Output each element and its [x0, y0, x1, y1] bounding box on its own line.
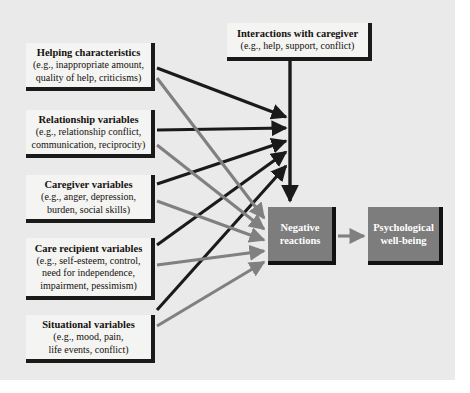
node-helping-characteristics[interactable]: Helping characteristics (e.g., inappropr… [26, 43, 155, 91]
node-label-line: well-being [373, 234, 434, 248]
node-detail-line: communication, reciprocity) [32, 139, 146, 151]
node-psychological-well-being[interactable]: Psychological well-being [368, 207, 443, 265]
node-detail-line: need for independence, [42, 267, 135, 279]
node-label-line: reactions [280, 234, 321, 248]
node-detail-line: (e.g., mood, pain, [53, 331, 123, 343]
node-detail-line: quality of help, criticisms) [36, 72, 142, 84]
node-label: Psychological well-being [373, 221, 434, 248]
node-title: Care recipient variables [35, 242, 143, 255]
node-negative-reactions[interactable]: Negative reactions [268, 207, 336, 265]
node-detail-line: (e.g., self-esteem, control, [36, 255, 140, 267]
node-interactions-with-caregiver[interactable]: Interactions with caregiver (e.g., help,… [227, 23, 372, 61]
node-title: Caregiver variables [45, 178, 133, 191]
node-title: Helping characteristics [37, 46, 141, 59]
node-care-recipient-variables[interactable]: Care recipient variables (e.g., self-est… [26, 238, 155, 300]
node-situational-variables[interactable]: Situational variables (e.g., mood, pain,… [26, 315, 155, 363]
node-relationship-variables[interactable]: Relationship variables (e.g., relationsh… [26, 110, 155, 158]
figure-root: Helping characteristics (e.g., inappropr… [0, 0, 470, 393]
node-title: Relationship variables [38, 113, 138, 126]
node-label-line: Psychological [373, 221, 434, 235]
node-caregiver-variables[interactable]: Caregiver variables (e.g., anger, depres… [26, 175, 155, 223]
node-detail-line: (e.g., relationship conflict, [36, 126, 142, 138]
node-detail-line: (e.g., inappropriate amount, [33, 59, 144, 71]
node-detail-line: burden, social skills) [47, 204, 130, 216]
node-label: Negative reactions [280, 221, 321, 248]
node-detail-line: impairment, pessimism) [40, 280, 137, 292]
node-detail-line: (e.g., anger, depression, [41, 191, 136, 203]
node-title: Interactions with caregiver [237, 27, 358, 40]
node-detail-line: life events, conflict) [48, 344, 128, 356]
node-detail-line: (e.g., help, support, conflict) [241, 40, 355, 52]
node-title: Situational variables [42, 318, 134, 331]
node-label-line: Negative [280, 221, 321, 235]
